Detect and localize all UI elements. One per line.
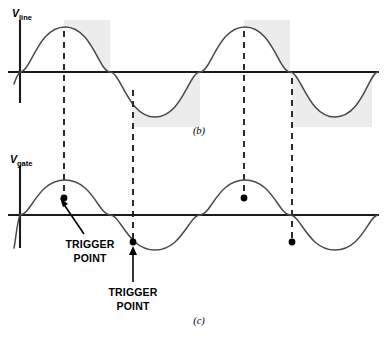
v-gate-axis-sublabel: gate [17,159,32,168]
trigger-label-2-line1: TRIGGER [108,286,157,298]
figure-container: V line (b) [0,0,387,337]
trigger-dot-2 [130,239,137,246]
panel-b-group: V line (b) [8,7,380,137]
trigger-label-2-line2: POINT [116,300,149,312]
trigger-label-1-line2: POINT [73,252,106,264]
caption-b: (b) [193,125,206,137]
trigger-dashed-lines [64,31,292,242]
caption-c: (c) [193,315,205,327]
waveform-figure: V line (b) [0,0,387,337]
trigger-label-1-line1: TRIGGER [65,238,114,250]
trigger-annotation-2 [129,246,137,282]
trigger-dot-3 [241,195,248,202]
trigger-arrow-2-head [129,246,137,255]
v-line-axis-sublabel: line [19,13,32,22]
trigger-dot-4 [289,239,296,246]
conduction-shading [20,20,380,130]
trigger-arrow-1-line [63,203,84,234]
